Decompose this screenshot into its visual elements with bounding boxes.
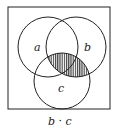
caption: b · c [48,115,72,128]
label-c: c [58,82,64,95]
label-a: a [34,41,41,54]
venn-diagram: a b c b · c [0,0,117,132]
label-b: b [84,41,91,54]
